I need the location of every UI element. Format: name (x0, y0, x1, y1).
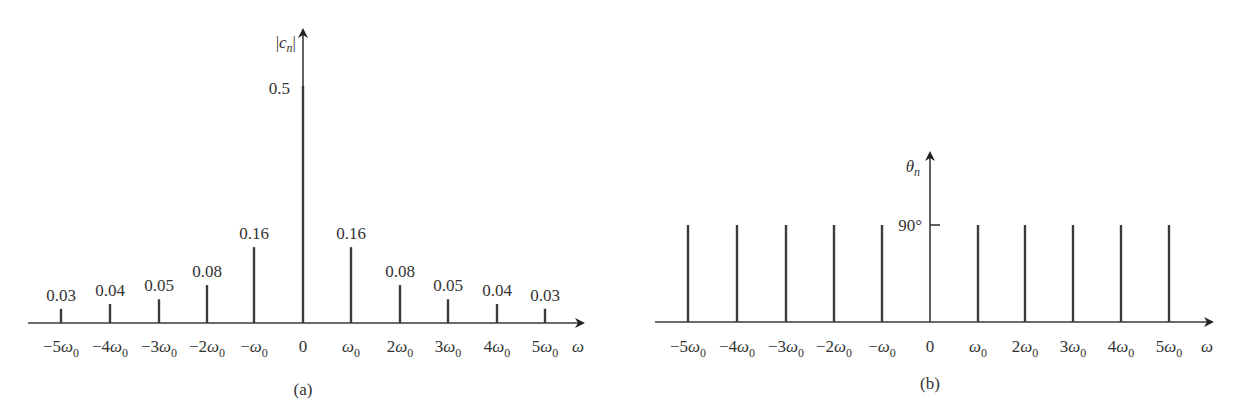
value-label: 0.03 (530, 286, 560, 305)
x-tick-label: −2ω0 (816, 337, 852, 360)
phase-spectrum-chart: 90°−5ω0−4ω0−3ω0−2ω0−ω00ω02ω03ω04ω05ω0θnω… (655, 153, 1213, 393)
value-label: 0.16 (336, 224, 366, 243)
x-tick-label: −ω0 (240, 337, 268, 360)
x-tick-label: −5ω0 (43, 337, 79, 360)
amplitude-spectrum-chart: 0.030.040.050.080.160.50.160.080.050.040… (28, 30, 584, 399)
y-axis-label: |cn| (276, 33, 296, 55)
x-tick-label: −3ω0 (768, 337, 804, 360)
x-tick-label: ω0 (342, 337, 360, 360)
x-tick-label: 4ω0 (484, 337, 511, 360)
x-tick-label: 0 (926, 337, 935, 356)
caption-a: (a) (294, 380, 313, 399)
x-tick-label: 3ω0 (435, 337, 462, 360)
value-label: 0.05 (144, 276, 174, 295)
x-axis-label: ω (1201, 337, 1213, 356)
x-axis-label: ω (572, 337, 584, 356)
x-tick-label: −4ω0 (92, 337, 128, 360)
y-axis-label: θn (906, 157, 920, 179)
caption-b: (b) (920, 374, 940, 393)
x-tick-label: −3ω0 (141, 337, 177, 360)
x-tick-label: −ω0 (868, 337, 896, 360)
x-tick-label: −5ω0 (670, 337, 706, 360)
x-tick-label: 2ω0 (1012, 337, 1039, 360)
x-tick-label: 0 (299, 337, 308, 356)
x-tick-label: 5ω0 (532, 337, 559, 360)
value-label: 0.03 (46, 286, 76, 305)
x-tick-label: 5ω0 (1156, 337, 1183, 360)
x-tick-label: −2ω0 (189, 337, 225, 360)
x-tick-label: 4ω0 (1108, 337, 1135, 360)
value-label: 0.04 (95, 281, 125, 300)
fourier-spectra-figure: 0.030.040.050.080.160.50.160.080.050.040… (0, 0, 1245, 420)
value-label: 0.5 (269, 79, 290, 98)
value-label: 0.16 (239, 224, 269, 243)
x-tick-label: 3ω0 (1060, 337, 1087, 360)
value-label: 0.08 (192, 262, 222, 281)
value-label: 0.04 (482, 281, 512, 300)
y-tick-label: 90° (898, 216, 922, 235)
value-label: 0.08 (385, 262, 415, 281)
x-tick-label: −4ω0 (719, 337, 755, 360)
x-tick-label: 2ω0 (387, 337, 414, 360)
x-tick-label: ω0 (969, 337, 987, 360)
value-label: 0.05 (433, 276, 463, 295)
